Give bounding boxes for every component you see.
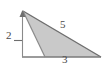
height-label: 2: [6, 30, 12, 41]
geometry-figure: 2 3 5: [0, 0, 110, 69]
base-label: 3: [62, 54, 68, 65]
triangle-diagram-svg: [0, 0, 110, 69]
hypotenuse-label: 5: [60, 19, 66, 30]
